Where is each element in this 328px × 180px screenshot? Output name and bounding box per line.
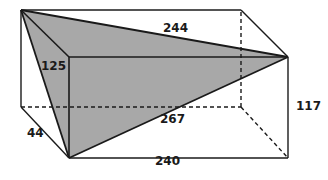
hidden-edge-bottom-right-depth: [241, 107, 288, 158]
dimension-label-240: 240: [155, 155, 180, 167]
dimension-label-117: 117: [296, 100, 321, 112]
geometry-figure: 244 125 117 267 44 240: [0, 0, 328, 180]
dimension-label-267: 267: [160, 113, 185, 125]
dimension-label-125: 125: [41, 60, 66, 72]
dimension-label-44: 44: [27, 127, 44, 139]
dimension-label-244: 244: [163, 22, 188, 34]
